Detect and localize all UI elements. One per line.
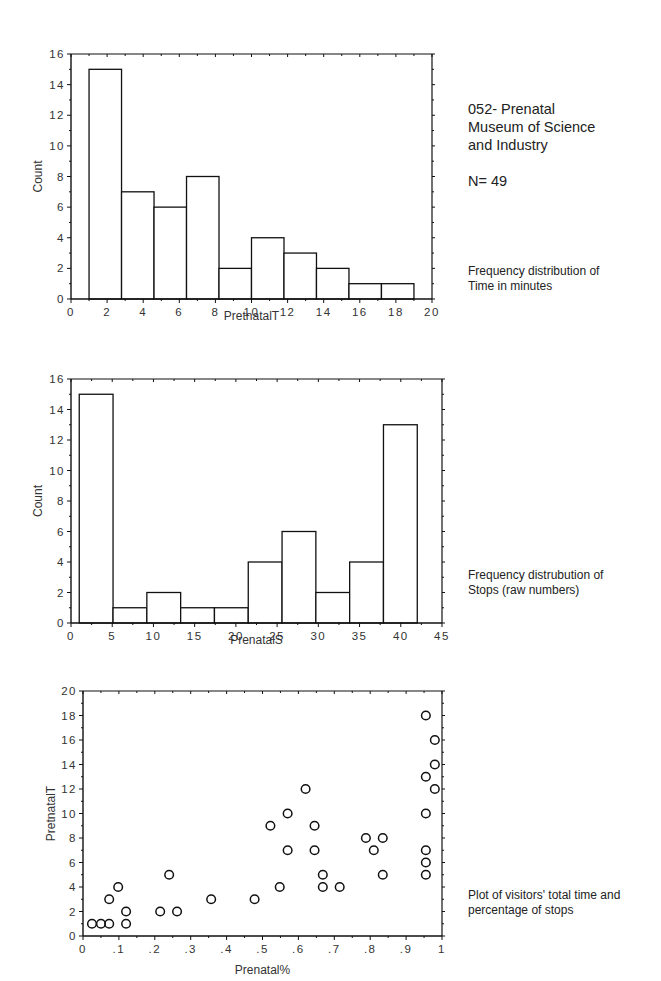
y-tick-label: 10 <box>49 140 65 152</box>
x-tick-label: 40 <box>393 630 409 642</box>
y-tick-label: 4 <box>57 556 65 568</box>
x-tick-label: 35 <box>352 630 368 642</box>
histogram-bar <box>154 207 186 299</box>
x-tick-label: 0 <box>67 306 75 318</box>
y-tick-label: 16 <box>49 373 65 385</box>
y-tick-label: 10 <box>61 808 77 820</box>
y-tick-label: 2 <box>57 587 65 599</box>
scatter-point <box>362 834 371 843</box>
histogram-bar <box>187 177 219 300</box>
y-tick-label: 8 <box>57 495 65 507</box>
scatter-point <box>422 858 431 867</box>
scatter-point <box>310 821 319 830</box>
x-tick-label: .9 <box>400 943 413 955</box>
x-tick-label: 20 <box>424 306 440 318</box>
scatter-point <box>422 846 431 855</box>
y-tick-label: 10 <box>49 465 65 477</box>
caption-time-histogram: Frequency distribution of Time in minute… <box>468 264 599 294</box>
y-tick-label: 12 <box>61 783 77 795</box>
x-tick-label: .4 <box>220 943 233 955</box>
y-tick-label: 0 <box>57 293 65 305</box>
x-tick-label: .6 <box>292 943 305 955</box>
scatter-point <box>431 736 440 745</box>
x-tick-label: 6 <box>175 306 183 318</box>
y-tick-label: 12 <box>49 434 65 446</box>
y-axis-title: Count <box>31 484 45 517</box>
x-tick-label: 16 <box>352 306 368 318</box>
scatter-point <box>156 907 165 916</box>
scatter-point <box>422 711 431 720</box>
y-tick-label: 16 <box>49 48 65 60</box>
study-title-line-2: Museum of Science <box>468 119 595 135</box>
x-axis-title: PrenatalS <box>230 633 283 647</box>
caption-line-1: Frequency distrubution of <box>468 568 603 582</box>
scatter-point <box>310 846 319 855</box>
scatter-point <box>165 870 174 879</box>
caption-line-2: Time in minutes <box>468 279 552 293</box>
scatter-point <box>250 895 259 904</box>
x-tick-label: 5 <box>108 630 116 642</box>
time-vs-pct-scatter-chart: 024681012141618200.1.2.3.4.5.6.7.8.91Pre… <box>44 685 446 977</box>
x-tick-label: 8 <box>211 306 219 318</box>
scatter-point <box>122 919 131 928</box>
scatter-point <box>319 883 328 892</box>
study-title-block: 052- Prenatal Museum of Science and Indu… <box>468 100 595 190</box>
scatter-point <box>266 821 275 830</box>
scatter-point <box>369 846 378 855</box>
scatter-point <box>88 919 97 928</box>
x-tick-label: .7 <box>328 943 341 955</box>
histogram-bar <box>282 532 316 624</box>
y-tick-label: 2 <box>69 906 77 918</box>
x-tick-label: .5 <box>256 943 269 955</box>
scatter-point <box>422 772 431 781</box>
histogram-bar <box>316 593 350 624</box>
x-tick-label: 10 <box>146 630 162 642</box>
histogram-bar <box>219 268 251 299</box>
x-axis-title: Prenatal% <box>235 963 291 977</box>
y-axis-title: PretnatalT <box>44 785 58 841</box>
x-tick-label: 1 <box>438 943 446 955</box>
x-tick-label: 0 <box>67 630 75 642</box>
histogram-bar <box>252 238 284 299</box>
scatter-point <box>431 760 440 769</box>
scatter-point <box>207 895 216 904</box>
y-tick-label: 14 <box>61 759 77 771</box>
scatter-point <box>114 883 123 892</box>
stops-histogram-chart: 0246810121416051015202530354045PrenatalS… <box>31 373 450 647</box>
y-tick-label: 12 <box>49 109 65 121</box>
x-tick-label: 2 <box>103 306 111 318</box>
caption-line-2: percentage of stops <box>468 903 573 917</box>
histogram-bar <box>383 425 417 623</box>
x-tick-label: .2 <box>149 943 162 955</box>
scatter-point <box>378 870 387 879</box>
histogram-bar <box>181 608 215 623</box>
x-tick-label: .3 <box>184 943 197 955</box>
y-tick-label: 4 <box>57 232 65 244</box>
scatter-point <box>378 834 387 843</box>
x-tick-label: 14 <box>316 306 332 318</box>
y-tick-label: 6 <box>69 857 77 869</box>
histogram-bar <box>350 562 384 623</box>
x-tick-label: 18 <box>388 306 404 318</box>
scatter-point <box>275 883 284 892</box>
y-tick-label: 18 <box>61 710 77 722</box>
histogram-bar <box>79 394 113 623</box>
scatter-point <box>283 846 292 855</box>
time-histogram-chart: 024681012141602468101214161820PretnatalT… <box>31 48 440 323</box>
x-tick-label: 15 <box>187 630 203 642</box>
scatter-point <box>105 919 114 928</box>
y-tick-label: 0 <box>69 930 77 942</box>
scatter-point <box>97 919 106 928</box>
histogram-bar <box>248 562 282 623</box>
y-tick-label: 2 <box>57 262 65 274</box>
y-tick-label: 4 <box>69 881 77 893</box>
histogram-bar <box>316 268 348 299</box>
scatter-point <box>422 870 431 879</box>
y-tick-label: 14 <box>49 79 65 91</box>
y-tick-label: 0 <box>57 617 65 629</box>
x-tick-label: 0 <box>79 943 87 955</box>
study-title-line-3: and Industry <box>468 137 548 153</box>
y-tick-label: 20 <box>61 685 77 697</box>
y-tick-label: 16 <box>61 734 77 746</box>
scatter-point <box>422 809 431 818</box>
